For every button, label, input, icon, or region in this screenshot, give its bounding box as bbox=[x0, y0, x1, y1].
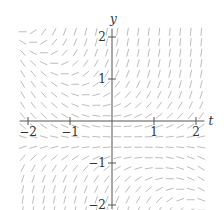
slope-segment bbox=[85, 28, 87, 36]
slope-segment bbox=[61, 83, 69, 86]
slope-segment bbox=[169, 70, 171, 78]
slope-segment bbox=[21, 165, 25, 172]
slope-segment bbox=[106, 49, 108, 57]
slope-segment bbox=[51, 92, 57, 97]
slope-segment bbox=[179, 80, 181, 88]
slope-segment bbox=[136, 196, 140, 203]
slope-segment bbox=[146, 187, 152, 192]
slope-segment bbox=[167, 207, 172, 210]
slope-segment bbox=[126, 81, 130, 88]
slope-segment bbox=[61, 103, 68, 107]
y-tick-label: −2 bbox=[88, 198, 106, 210]
slope-segment bbox=[155, 178, 163, 180]
slope-segment bbox=[84, 186, 87, 193]
slope-segment bbox=[187, 188, 195, 190]
x-tick-label: 1 bbox=[150, 125, 158, 139]
slope-segment bbox=[41, 71, 47, 76]
slope-segment bbox=[188, 113, 193, 119]
y-tick-label: 1 bbox=[98, 72, 106, 86]
slope-segment bbox=[198, 166, 205, 170]
slope-segment bbox=[64, 185, 66, 193]
slope-segment bbox=[31, 113, 36, 119]
slope-segment bbox=[41, 155, 47, 160]
x-tick-label: −1 bbox=[61, 125, 79, 139]
slope-segment bbox=[201, 28, 202, 36]
slope-segment bbox=[197, 147, 205, 148]
slope-segment bbox=[32, 196, 34, 204]
slope-segment bbox=[73, 49, 77, 56]
slope-segment bbox=[21, 102, 25, 109]
slope-segment bbox=[64, 206, 65, 210]
slope-segment bbox=[72, 156, 79, 160]
slope-segment bbox=[51, 82, 58, 87]
slope-segment bbox=[148, 38, 149, 46]
slope-segment bbox=[180, 28, 181, 36]
slope-segment bbox=[176, 178, 184, 180]
slope-segment bbox=[61, 93, 68, 97]
slope-segment bbox=[63, 175, 66, 182]
slope-segment bbox=[135, 114, 142, 117]
slope-segment bbox=[127, 49, 129, 57]
slope-segment bbox=[82, 115, 90, 117]
slope-segment bbox=[52, 39, 57, 45]
slope-segment bbox=[41, 81, 47, 87]
slope-segment bbox=[199, 112, 204, 119]
slope-segment bbox=[84, 38, 87, 46]
slope-segment bbox=[51, 124, 58, 128]
slope-segment bbox=[147, 207, 151, 210]
slope-segment bbox=[31, 71, 36, 77]
slope-segment bbox=[116, 196, 119, 203]
slope-segment bbox=[19, 40, 26, 44]
plot-area: −2−11221−1−2 t y bbox=[0, 0, 224, 210]
slope-segment bbox=[31, 81, 36, 87]
slope-segment bbox=[22, 206, 23, 210]
slope-segment bbox=[126, 70, 129, 77]
slope-segment bbox=[157, 207, 161, 210]
slope-segment bbox=[200, 102, 203, 109]
slope-segment bbox=[187, 177, 194, 180]
slope-segment bbox=[33, 206, 34, 210]
slope-segment bbox=[190, 59, 191, 67]
slope-segment bbox=[198, 156, 205, 159]
slope-segment bbox=[125, 186, 130, 193]
slope-segment bbox=[169, 28, 170, 36]
slope-segment bbox=[138, 28, 139, 36]
slope-segment bbox=[113, 115, 121, 116]
slope-segment bbox=[177, 124, 184, 128]
slope-segment bbox=[116, 206, 118, 210]
slope-segment bbox=[51, 51, 58, 55]
slope-segment bbox=[125, 92, 130, 98]
slope-segment bbox=[190, 28, 191, 36]
slope-segment bbox=[106, 206, 108, 210]
slope-segment bbox=[95, 49, 98, 56]
slope-segment bbox=[201, 38, 202, 46]
slope-segment bbox=[200, 80, 202, 88]
slope-segment bbox=[134, 157, 142, 158]
slope-segment bbox=[63, 28, 66, 35]
slope-field-chart: −2−11221−1−2 t y bbox=[0, 0, 224, 210]
slope-segment bbox=[176, 147, 184, 148]
slope-segment bbox=[201, 49, 202, 57]
slope-segment bbox=[21, 81, 25, 88]
slope-segment bbox=[20, 60, 25, 67]
slope-segment bbox=[62, 50, 67, 56]
slope-segment bbox=[73, 165, 78, 171]
slope-segment bbox=[114, 104, 121, 107]
slope-segment bbox=[166, 168, 174, 169]
slope-segment bbox=[103, 93, 110, 97]
slope-segment bbox=[84, 49, 87, 56]
slope-segment bbox=[157, 102, 162, 108]
slope-segment bbox=[145, 114, 152, 118]
slope-segment bbox=[50, 136, 58, 138]
slope-segment bbox=[157, 91, 161, 98]
slope-segment bbox=[148, 70, 150, 78]
slope-segment bbox=[105, 60, 108, 67]
slope-segment bbox=[95, 186, 98, 193]
slope-segment bbox=[31, 102, 36, 108]
x-tick-label: −2 bbox=[19, 125, 37, 139]
slope-segment bbox=[62, 165, 67, 172]
slope-segment bbox=[166, 157, 174, 158]
slope-segment bbox=[189, 91, 192, 99]
slope-segment bbox=[156, 197, 162, 203]
slope-segment bbox=[166, 136, 174, 137]
